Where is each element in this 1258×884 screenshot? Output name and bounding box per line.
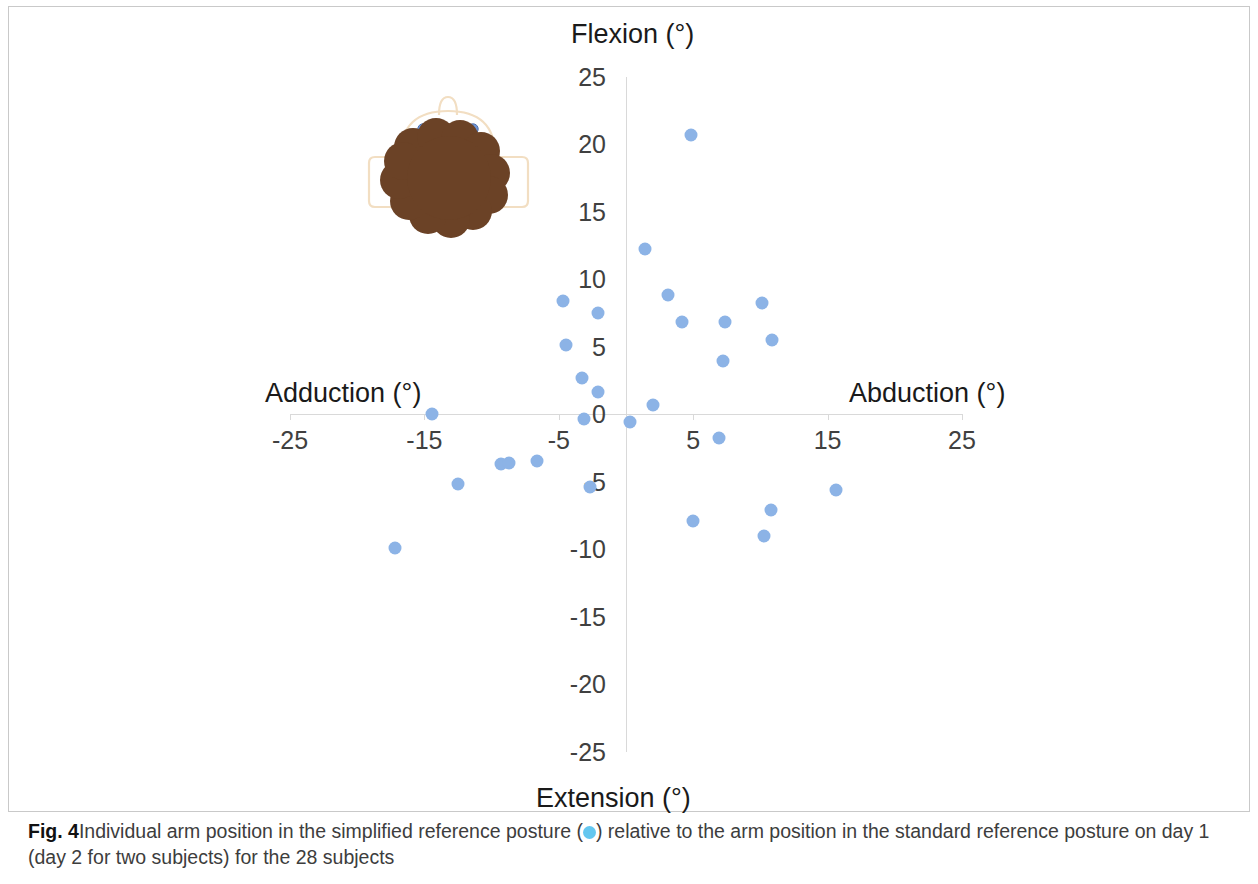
data-point	[661, 289, 674, 302]
data-point	[575, 371, 588, 384]
figure-caption: Fig. 4Individual arm position in the sim…	[28, 818, 1233, 870]
x-axis-tick-label: -15	[384, 428, 464, 453]
figure-page: -25-15-5515252520151050-5-10-15-20-25Fle…	[0, 0, 1258, 884]
figure-number: Fig. 4	[28, 820, 79, 842]
x-axis-tick	[962, 414, 963, 420]
x-axis-tick	[828, 414, 829, 420]
data-point	[578, 413, 591, 426]
x-axis-tick-label: -5	[519, 428, 599, 453]
caption-text-before-marker: Individual arm position in the simplifie…	[79, 820, 583, 842]
y-axis-tick-label: -20	[516, 672, 606, 697]
data-point	[583, 480, 596, 493]
x-axis-tick-label: 15	[788, 428, 868, 453]
y-axis-title-flexion: Flexion (°)	[571, 21, 694, 48]
y-axis-tick-label: -10	[516, 537, 606, 562]
data-point	[646, 398, 659, 411]
figure-panel: -25-15-5515252520151050-5-10-15-20-25Fle…	[8, 6, 1250, 812]
data-point	[755, 297, 768, 310]
data-point	[766, 333, 779, 346]
legend-circle-icon	[583, 826, 596, 839]
x-axis-tick	[290, 414, 291, 420]
data-point	[388, 541, 401, 554]
data-point	[712, 432, 725, 445]
y-axis-tick-label: -15	[516, 605, 606, 630]
data-point	[426, 408, 439, 421]
data-point	[531, 455, 544, 468]
data-point	[591, 386, 604, 399]
y-axis-tick-label: 0	[516, 402, 606, 427]
data-point	[676, 316, 689, 329]
data-point	[638, 243, 651, 256]
scatter-plot: -25-15-5515252520151050-5-10-15-20-25Fle…	[9, 7, 1251, 813]
data-point	[687, 514, 700, 527]
data-point	[559, 339, 572, 352]
x-axis-line	[290, 414, 962, 415]
data-point	[719, 316, 732, 329]
y-axis-tick-label: 10	[516, 267, 606, 292]
upper-body-shoulder-schematic	[361, 85, 536, 240]
x-axis-tick-label: 25	[922, 428, 1002, 453]
data-point	[591, 306, 604, 319]
data-point	[758, 529, 771, 542]
y-axis-title-extension: Extension (°)	[536, 785, 691, 812]
data-point	[624, 416, 637, 429]
data-point	[452, 478, 465, 491]
data-point	[765, 503, 778, 516]
y-axis-tick-label: 25	[516, 65, 606, 90]
x-axis-tick-label: -25	[250, 428, 330, 453]
data-point	[829, 483, 842, 496]
data-point	[684, 128, 697, 141]
x-axis-title-abduction: Abduction (°)	[849, 380, 1005, 407]
y-axis-tick-label: 15	[516, 200, 606, 225]
data-point	[503, 456, 516, 469]
x-axis-tick	[693, 414, 694, 420]
data-point	[716, 355, 729, 368]
x-axis-title-adduction: Adduction (°)	[265, 380, 421, 407]
y-axis-tick-label: -25	[516, 740, 606, 765]
y-axis-tick-label: 20	[516, 132, 606, 157]
data-point	[556, 294, 569, 307]
